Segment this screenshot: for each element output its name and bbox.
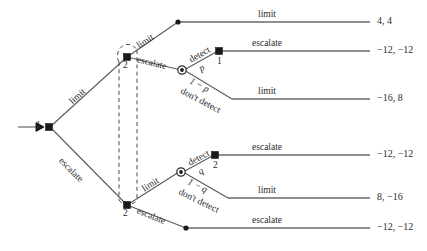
label-node-upper-player1: 1 — [217, 57, 222, 67]
node-terminal-top — [175, 19, 180, 24]
label-node-upper-player2: 2 — [123, 61, 128, 71]
payoff-dontdetect-limit-upper: −16, 8 — [377, 93, 403, 103]
game-tree-diagram: 1 2 1 2 2 limit escalate limit escalate … — [0, 0, 427, 251]
label-edge-dontdetect2-limit: limit — [258, 186, 276, 196]
label-edge-p2-escalate: escalate — [252, 143, 282, 153]
node-upper-player1[interactable] — [216, 48, 223, 55]
node-lower-player2-right[interactable] — [212, 152, 219, 159]
label-edge-bottom-escalate: escalate — [252, 216, 282, 226]
node-root-player1[interactable] — [46, 124, 53, 131]
payoff-dontdetect-limit-lower: 8, −16 — [377, 192, 403, 202]
edge-root-limit — [50, 57, 127, 127]
label-edge-dontdetect1-limit: limit — [258, 87, 276, 97]
label-edge-top-limit: limit — [258, 10, 276, 20]
node-chance-lower[interactable] — [177, 168, 185, 176]
payoff-limit-limit: 4, 4 — [377, 16, 392, 26]
label-edge-p1-escalate: escalate — [252, 39, 282, 49]
payoff-detect-escalate-upper: −12, −12 — [377, 45, 413, 55]
label-node-lower-player2-left: 2 — [123, 209, 128, 219]
label-node-root-player: 1 — [36, 121, 41, 131]
payoff-detect-escalate-lower: −12, −12 — [377, 149, 413, 159]
node-chance-upper[interactable] — [178, 66, 186, 74]
payoff-escalate-escalate: −12, −12 — [377, 222, 413, 232]
node-terminal-bottom — [183, 225, 188, 230]
label-node-lower-player2-right: 2 — [213, 161, 218, 171]
